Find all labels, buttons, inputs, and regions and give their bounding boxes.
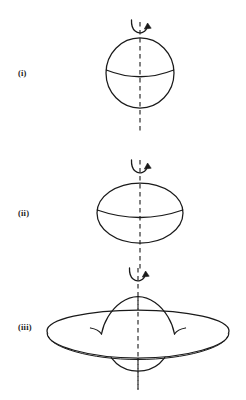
- panel-label-iii: (iii): [18, 322, 32, 332]
- figure-canvas: (i) (ii): [0, 0, 246, 400]
- figure-panel: (i) (ii): [0, 0, 246, 400]
- panel-label-ii: (ii): [18, 208, 29, 218]
- panel-label-i: (i): [18, 68, 27, 78]
